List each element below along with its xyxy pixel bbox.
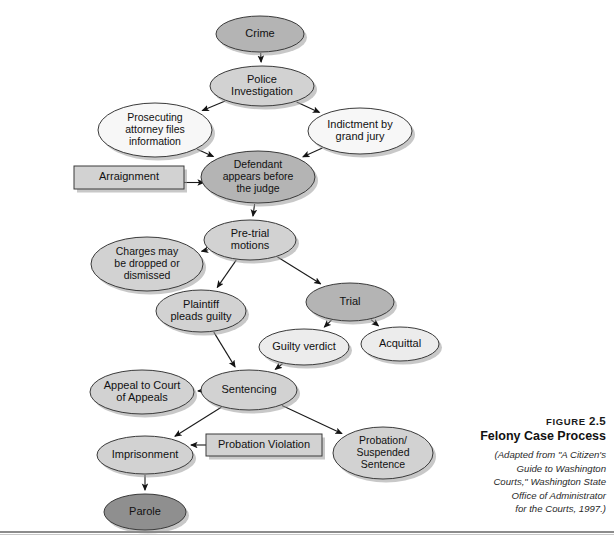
node-probation[interactable]: Probation/SuspendedSentence (333, 427, 436, 483)
node-acquittal[interactable]: Acquittal (361, 327, 442, 365)
figure-number-prefix: FIGURE (546, 416, 586, 427)
figure-caption: FIGURE 2.5 Felony Case Process (Adapted … (438, 414, 606, 516)
node-label-police: Police (247, 73, 277, 85)
node-label-arraignment: Arraignment (99, 170, 159, 182)
node-label-defendant: Defendant (234, 158, 283, 170)
node-trial[interactable]: Trial (306, 283, 397, 325)
figure-source-line: Guide to Washington (438, 462, 606, 476)
flow-edge-pretrial-to-charges (202, 250, 209, 252)
flow-edge-indictment-to-defendant (303, 148, 322, 157)
node-plaintiff[interactable]: Plaintiffpleads guilty (156, 290, 249, 336)
flow-edge-police-to-prosecuting (202, 101, 225, 110)
node-label-police: Investigation (231, 85, 293, 97)
figure-source-line: for the Courts, 1997.) (438, 502, 606, 516)
node-label-charges: dismissed (124, 269, 171, 281)
node-label-defendant: the judge (236, 182, 279, 194)
node-label-appeal: Appeal to Court (104, 379, 180, 391)
node-label-indictment: Indictment by (327, 118, 393, 130)
node-label-defendant: appears before (223, 170, 294, 182)
node-label-pretrial: Pre-trial (231, 227, 270, 239)
figure-number: FIGURE 2.5 (438, 414, 606, 428)
node-prosecuting[interactable]: Prosecutingattorney filesinformation (98, 103, 215, 161)
node-label-crime: Crime (245, 27, 274, 39)
felony-case-process-figure: CrimePoliceInvestigationProsecutingattor… (0, 0, 614, 553)
node-defendant[interactable]: Defendantappears beforethe judge (201, 151, 318, 207)
node-label-plaintiff: Plaintiff (183, 298, 220, 310)
node-label-prosecuting: attorney files (125, 123, 185, 135)
node-label-charges: be dropped or (114, 257, 180, 269)
node-label-indictment: grand jury (336, 130, 385, 142)
node-parole[interactable]: Parole (104, 494, 189, 534)
node-indictment[interactable]: Indictment bygrand jury (308, 108, 415, 158)
node-label-probation_violation: Probation Violation (218, 438, 310, 450)
flow-edge-sentencing-to-imprisonment (175, 407, 221, 436)
figure-title: Felony Case Process (438, 429, 606, 445)
figure-source-line: Office of Administrator (438, 489, 606, 503)
node-sentencing[interactable]: Sentencing (201, 370, 300, 414)
node-arraignment[interactable]: Arraignment (74, 166, 187, 193)
node-appeal[interactable]: Appeal to Courtof Appeals (90, 370, 197, 418)
page-rule-primary (0, 531, 614, 533)
node-label-plaintiff: pleads guilty (170, 310, 232, 322)
node-crime[interactable]: Crime (216, 16, 307, 56)
node-pretrial[interactable]: Pre-trialmotions (204, 220, 299, 264)
flow-edge-pretrial-to-trial (278, 257, 321, 284)
node-label-imprisonment: Imprisonment (112, 448, 179, 460)
node-guilty[interactable]: Guilty verdict (259, 329, 352, 369)
node-label-acquittal: Acquittal (379, 337, 421, 349)
node-layer: CrimePoliceInvestigationProsecutingattor… (74, 16, 442, 534)
node-label-probation: Sentence (361, 458, 406, 470)
figure-source-line: Courts," Washington State (438, 475, 606, 489)
flow-edge-sentencing-to-probation (282, 406, 342, 434)
node-police[interactable]: PoliceInvestigation (210, 66, 317, 110)
figure-number-value: 2.5 (589, 415, 606, 427)
node-label-appeal: of Appeals (116, 391, 168, 403)
node-label-sentencing: Sentencing (221, 383, 276, 395)
node-label-guilty: Guilty verdict (272, 340, 336, 352)
node-label-parole: Parole (129, 505, 161, 517)
page-rule-secondary (0, 534, 614, 535)
flow-edge-pretrial-to-plaintiff (217, 260, 236, 287)
node-label-prosecuting: Prosecuting (127, 111, 183, 123)
node-probation_violation[interactable]: Probation Violation (206, 434, 325, 460)
flow-edge-plaintiff-to-sentencing (214, 332, 235, 367)
node-imprisonment[interactable]: Imprisonment (97, 436, 196, 478)
node-label-charges: Charges may (116, 245, 179, 257)
figure-source-line: (Adapted from "A Citizen's (438, 448, 606, 462)
node-label-trial: Trial (340, 295, 361, 307)
node-label-probation: Probation/ (359, 434, 407, 446)
figure-source: (Adapted from "A Citizen'sGuide to Washi… (438, 448, 606, 516)
node-label-pretrial: motions (231, 239, 270, 251)
node-label-prosecuting: information (129, 135, 181, 147)
node-label-probation: Suspended (356, 446, 409, 458)
node-charges[interactable]: Charges maybe dropped ordismissed (91, 237, 206, 295)
